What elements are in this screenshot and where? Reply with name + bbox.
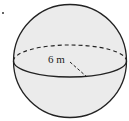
sphere-outline: [14, 5, 127, 118]
list-bullet: [2, 12, 4, 14]
radius-label: 6 m: [48, 54, 65, 65]
sphere-diagram: 6 m: [0, 0, 129, 121]
